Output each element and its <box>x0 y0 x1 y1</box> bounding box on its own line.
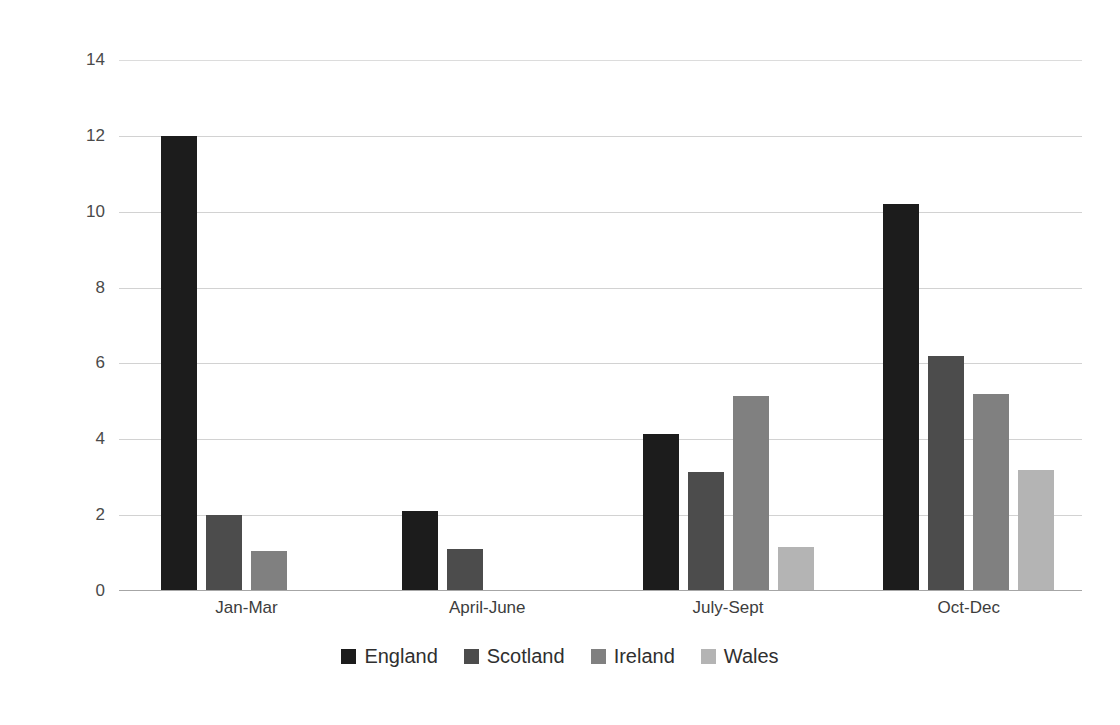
y-tick-label: 8 <box>96 278 105 298</box>
y-tick-label: 14 <box>86 50 105 70</box>
y-tick-label: 12 <box>86 126 105 146</box>
bar <box>206 515 242 591</box>
y-tick-label: 10 <box>86 202 105 222</box>
legend-item-wales[interactable]: Wales <box>701 645 779 668</box>
bar <box>447 549 483 591</box>
x-axis-label-jan-mar: Jan-Mar <box>215 598 277 618</box>
y-tick-label: 4 <box>96 429 105 449</box>
x-axis-label-july-sept: July-Sept <box>693 598 764 618</box>
x-axis-label-oct-dec: Oct-Dec <box>938 598 1000 618</box>
bar <box>733 396 769 591</box>
bar-chart-figure: No. of people 02468101214 Jan-MarApril-J… <box>0 0 1120 725</box>
legend-swatch-icon <box>341 649 356 664</box>
legend-item-ireland[interactable]: Ireland <box>591 645 675 668</box>
x-axis-label-april-june: April-June <box>449 598 526 618</box>
chart-legend: EnglandScotlandIrelandWales <box>0 645 1120 668</box>
y-tick-label: 6 <box>96 353 105 373</box>
legend-label: Scotland <box>487 645 565 668</box>
x-axis-line <box>119 590 1082 591</box>
bar <box>643 434 679 591</box>
y-tick-label: 0 <box>96 581 105 601</box>
x-axis-category-labels: Jan-MarApril-JuneJuly-SeptOct-Dec <box>119 598 1082 626</box>
bar <box>928 356 964 591</box>
legend-swatch-icon <box>701 649 716 664</box>
bar <box>973 394 1009 591</box>
legend-swatch-icon <box>464 649 479 664</box>
legend-label: Wales <box>724 645 779 668</box>
bar <box>688 472 724 591</box>
legend-label: England <box>364 645 437 668</box>
bar <box>1018 470 1054 591</box>
legend-label: Ireland <box>614 645 675 668</box>
legend-item-england[interactable]: England <box>341 645 437 668</box>
bars-layer <box>119 60 1082 591</box>
chart-title-clipped <box>0 0 1120 8</box>
legend-item-scotland[interactable]: Scotland <box>464 645 565 668</box>
plot-area: 02468101214 <box>119 60 1082 591</box>
bar <box>883 204 919 591</box>
y-tick-label: 2 <box>96 505 105 525</box>
bar <box>251 551 287 591</box>
bar <box>402 511 438 591</box>
legend-swatch-icon <box>591 649 606 664</box>
bar <box>778 547 814 591</box>
bar <box>161 136 197 591</box>
